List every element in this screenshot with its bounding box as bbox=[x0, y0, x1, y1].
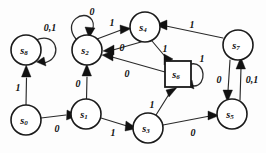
transition-s3-s6 bbox=[156, 88, 177, 116]
edge-path bbox=[240, 68, 241, 100]
edge-path bbox=[112, 57, 165, 72]
edge-label-s2-s2: 0 bbox=[90, 6, 95, 17]
edge-label-s2-s4: 1 bbox=[110, 17, 115, 28]
edge-path bbox=[113, 42, 141, 50]
edge-label-s3-s6: 1 bbox=[150, 99, 155, 110]
state-node-s8[interactable]: s8 bbox=[11, 35, 41, 65]
transition-s0-s8 bbox=[22, 65, 32, 105]
edge-path bbox=[228, 60, 230, 91]
transition-s3-s5 bbox=[163, 111, 219, 125]
arrowhead bbox=[82, 64, 92, 76]
transition-s5-s7 bbox=[236, 57, 246, 100]
state-node-s7[interactable]: s7 bbox=[223, 30, 253, 60]
state-diagram-svg: s0 s1 s2 s3 s4 bbox=[0, 0, 266, 153]
edge-label-s1-s3: 1 bbox=[111, 127, 116, 138]
edge-label-s6-s2: 0 bbox=[125, 68, 130, 79]
edge-label-s0-s1: 0 bbox=[55, 123, 60, 134]
edge-label-s3-s5: 0 bbox=[191, 127, 196, 138]
edge-label-s7-s4: 1 bbox=[190, 19, 195, 30]
edge-label-s4-s6: 1 bbox=[163, 43, 168, 54]
edge-label-s7-s5: 0 bbox=[217, 74, 222, 85]
state-node-s6[interactable]: s6 bbox=[165, 61, 191, 87]
edge-path bbox=[166, 26, 223, 38]
edge-label-s0-s8: 1 bbox=[16, 82, 21, 93]
state-node-s0[interactable]: s0 bbox=[11, 105, 41, 135]
transition-s7-s5 bbox=[223, 60, 233, 102]
edge-path bbox=[163, 116, 210, 125]
edge-path bbox=[26, 78, 27, 105]
edge-path bbox=[87, 77, 88, 99]
state-diagram-canvas: s0 s1 s2 s3 s4 bbox=[0, 0, 266, 153]
edge-path bbox=[41, 115, 66, 118]
state-node-s1[interactable]: s1 bbox=[71, 99, 101, 129]
arrowhead bbox=[22, 65, 32, 77]
transition-s6-s2 bbox=[102, 51, 165, 72]
transition-s1-s2 bbox=[82, 64, 92, 99]
state-node-s2[interactable]: s2 bbox=[72, 35, 102, 65]
state-node-s3[interactable]: s3 bbox=[133, 113, 163, 143]
edge-label-s8-s8: 0,1 bbox=[44, 22, 57, 33]
edge-label-s6-s6: 1 bbox=[200, 53, 205, 64]
state-node-s4[interactable]: s4 bbox=[130, 12, 160, 42]
transition-s1-s3 bbox=[101, 118, 137, 131]
edge-label-s4-s2: 0 bbox=[120, 42, 125, 53]
state-node-s5[interactable]: s5 bbox=[217, 99, 247, 129]
edge-label-s5-s7: 0,1 bbox=[246, 74, 259, 85]
edge-label-s1-s2: 0 bbox=[76, 78, 81, 89]
edge-path bbox=[97, 30, 121, 39]
edge-path bbox=[101, 118, 127, 126]
